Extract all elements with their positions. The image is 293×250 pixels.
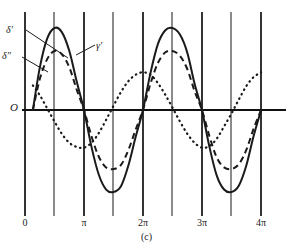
x-tick-label: π	[69, 217, 99, 228]
curve-label-delta-prime: δ′	[6, 24, 13, 35]
x-tick-label: 2π	[128, 217, 158, 228]
curve-label-gamma-prime: γ′	[96, 40, 102, 51]
axis-ticks	[25, 208, 261, 216]
plot-canvas	[0, 0, 293, 250]
x-tick-label: 3π	[187, 217, 217, 228]
delta-prime-leader	[26, 30, 68, 58]
x-tick-label: 0	[10, 217, 40, 228]
curve-label-delta-double-prime: δ″	[2, 50, 11, 61]
figure-caption: (c)	[0, 231, 293, 242]
x-tick-label: 4π	[246, 217, 276, 228]
gamma-prime-leader	[76, 45, 95, 55]
origin-label: O	[10, 101, 18, 113]
figure-container: O δ′ δ″ γ′ 0π2π3π4π (c)	[0, 0, 293, 250]
